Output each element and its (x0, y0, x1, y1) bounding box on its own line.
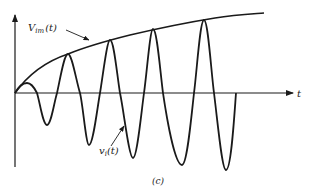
signal-label: vi(t) (99, 145, 119, 158)
time-axis-label: t (297, 88, 302, 99)
envelope-label: Vim(t) (28, 22, 57, 35)
envelope-leader-arrow (66, 30, 89, 40)
signal-waveform (15, 20, 236, 170)
signal-leader-arrow (111, 126, 124, 146)
waveform-diagram: t Vim(t) vi(t) (c) (0, 0, 309, 193)
figure-caption: (c) (152, 176, 165, 186)
